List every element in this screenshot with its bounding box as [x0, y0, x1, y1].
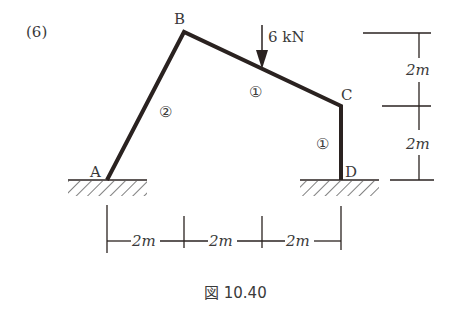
- member-label-bc: ①: [249, 83, 262, 101]
- frame-members: [107, 32, 341, 180]
- node-label-a: A: [89, 163, 101, 181]
- vertical-dimension: [363, 33, 434, 180]
- member-label-cd: ①: [316, 135, 329, 153]
- dim-horizontal-3: 2m: [285, 232, 310, 250]
- fixed-support-a: [68, 180, 147, 196]
- node-label-c: C: [341, 86, 352, 104]
- dim-horizontal-2: 2m: [208, 232, 233, 250]
- dim-horizontal-1: 2m: [131, 232, 156, 250]
- member-label-ab: ②: [159, 103, 172, 121]
- problem-label: (6): [26, 23, 47, 41]
- fixed-support-d: [300, 180, 379, 196]
- node-label-d: D: [345, 163, 357, 181]
- dim-vertical-1: 2m: [405, 61, 430, 79]
- node-label-b: B: [174, 10, 185, 28]
- frame-diagram: (6) A B C D ② ① ① 6 kN 2m 2m: [0, 0, 461, 313]
- load-label: 6 kN: [268, 28, 305, 46]
- dim-vertical-2: 2m: [405, 135, 430, 153]
- load-arrow-icon: [256, 25, 268, 69]
- figure-caption: 図 10.40: [204, 284, 267, 302]
